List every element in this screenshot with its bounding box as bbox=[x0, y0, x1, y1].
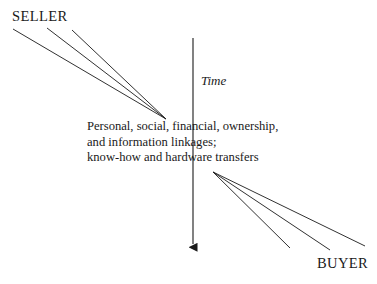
buyer-line-2 bbox=[213, 172, 330, 250]
buyer-linkage-lines bbox=[213, 172, 365, 250]
linkage-text-line-1: Personal, social, financial, ownership, bbox=[87, 119, 278, 135]
seller-line-3 bbox=[72, 30, 166, 119]
time-axis-label: Time bbox=[201, 74, 226, 87]
seller-line-2 bbox=[47, 28, 166, 119]
buyer-line-1 bbox=[213, 172, 365, 246]
linkage-description-text: Personal, social, financial, ownership, … bbox=[87, 119, 278, 166]
seller-line-1 bbox=[13, 29, 166, 119]
linkage-text-line-2: and information linkages; bbox=[87, 135, 278, 151]
transaction-linkage-diagram: SELLER Time Personal, social, financial,… bbox=[0, 0, 377, 284]
seller-linkage-lines bbox=[13, 28, 166, 119]
linkage-text-line-3: know-how and hardware transfers bbox=[87, 150, 278, 166]
buyer-line-3 bbox=[213, 172, 290, 248]
buyer-node-label: BUYER bbox=[317, 256, 368, 271]
seller-node-label: SELLER bbox=[12, 9, 68, 24]
